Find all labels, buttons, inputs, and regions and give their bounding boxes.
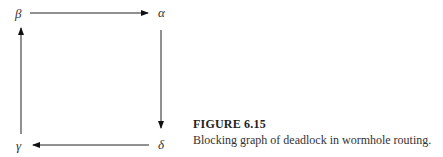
node-gamma: γ	[16, 139, 21, 152]
node-delta: δ	[158, 138, 164, 151]
figure-caption-text: Blocking graph of deadlock in wormhole r…	[193, 133, 431, 148]
node-beta: β	[15, 7, 21, 20]
node-alpha: α	[158, 6, 165, 19]
figure-caption-title: FIGURE 6.15	[193, 117, 266, 132]
